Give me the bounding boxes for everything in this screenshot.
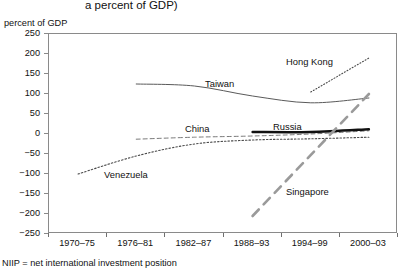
series-label-china: China <box>185 123 210 134</box>
y-axis-tick-label: 0 <box>0 128 40 138</box>
y-axis-tick-label: −100 <box>0 168 40 178</box>
x-axis-tick <box>397 233 398 237</box>
x-axis-tick <box>164 233 165 237</box>
series-label-singapore: Singapore <box>286 186 329 197</box>
y-axis-tick-label: −200 <box>0 208 40 218</box>
y-axis-tick-label: 150 <box>0 68 40 78</box>
x-axis-tick-label: 2000–03 <box>333 238 403 248</box>
x-axis-tick <box>48 233 49 237</box>
y-axis-tick-label: 100 <box>0 88 40 98</box>
series-line-taiwan <box>136 84 369 103</box>
y-axis-title: percent of GDP <box>4 18 67 28</box>
y-axis-tick-label: 250 <box>0 28 40 38</box>
series-line-singapore <box>253 94 369 216</box>
y-axis-tick-label: 50 <box>0 108 40 118</box>
chart-footnote: NIIP = net international investment posi… <box>2 258 177 268</box>
x-axis-tick <box>281 233 282 237</box>
x-axis-tick <box>339 233 340 237</box>
x-axis-tick <box>223 233 224 237</box>
y-axis-tick-label: 200 <box>0 48 40 58</box>
y-axis-tick-label: −250 <box>0 228 40 238</box>
series-label-taiwan: Taiwan <box>205 78 234 89</box>
series-label-russia: Russia <box>273 121 302 132</box>
series-lines <box>49 34 397 233</box>
plot-area <box>48 33 397 233</box>
series-label-hong-kong: Hong Kong <box>286 56 333 67</box>
x-axis-tick <box>106 233 107 237</box>
chart-figure: a percent of GDP) percent of GDP 2502001… <box>0 0 405 277</box>
y-axis-tick-label: −50 <box>0 148 40 158</box>
chart-title-fragment: a percent of GDP) <box>85 0 178 11</box>
series-label-venezuela: Venezuela <box>104 169 148 180</box>
series-line-russia <box>253 129 369 132</box>
y-axis-tick-label: −150 <box>0 188 40 198</box>
